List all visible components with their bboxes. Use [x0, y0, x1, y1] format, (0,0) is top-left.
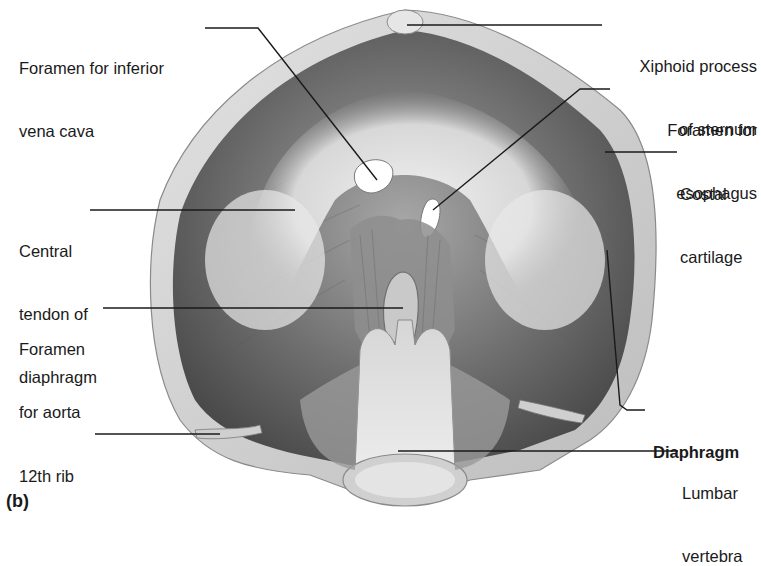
label-line: 12th rib — [19, 466, 74, 487]
label-lumbar-vertebra: Lumbar vertebra — [682, 441, 743, 566]
panel-label: (b) — [6, 491, 29, 512]
lumbar-vertebra — [355, 320, 455, 470]
label-line: vertebra — [682, 546, 743, 566]
label-line: for aorta — [19, 402, 85, 423]
label-line: Foramen — [19, 339, 85, 360]
label-line: Foramen for — [645, 120, 757, 141]
label-line: Foramen for inferior — [19, 58, 164, 79]
label-line: vena cava — [19, 121, 164, 142]
label-line: Central — [19, 241, 97, 262]
label-line: Xiphoid process — [611, 56, 757, 77]
label-line: Lumbar — [682, 483, 743, 504]
label-costal-cartilage: Costal cartilage — [680, 142, 742, 289]
label-aortic-foramen: Foramen for aorta — [19, 297, 85, 444]
label-ivc-foramen: Foramen for inferior vena cava — [19, 16, 164, 163]
xiphoid-process — [387, 10, 423, 34]
label-line: Costal — [680, 184, 742, 205]
label-line: cartilage — [680, 247, 742, 268]
